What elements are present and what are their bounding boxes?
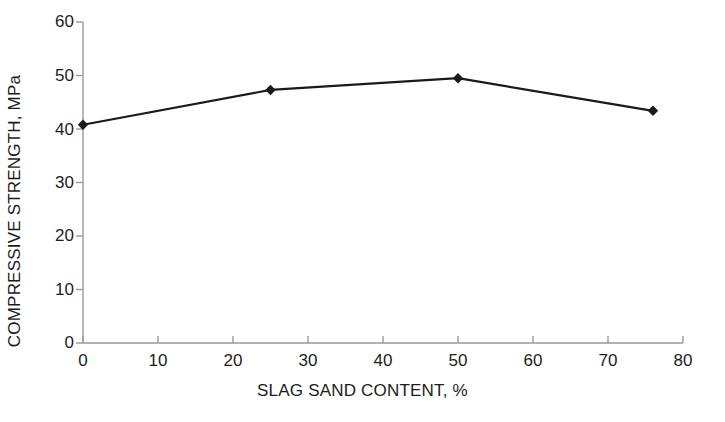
axis-lines <box>83 22 683 343</box>
series-line <box>83 78 653 125</box>
chart-container: COMPRESSIVE STRENGTH, MPa SLAG SAND CONT… <box>0 0 725 422</box>
plot-area <box>0 0 725 422</box>
series-markers <box>78 73 658 130</box>
axis-ticks <box>76 22 683 343</box>
